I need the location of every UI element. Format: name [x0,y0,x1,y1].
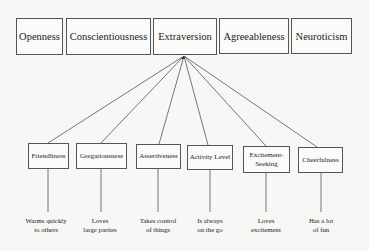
domain-agreeableness: Agreeableness [219,18,289,54]
example-excitement-seeking: Loves excitement [236,216,296,234]
facet-friendliness: Friendliness [28,143,69,169]
facet-gregariousness: Gregariousness [76,143,127,169]
line-friendliness [48,56,184,143]
domain-neuroticism: Neuroticism [291,18,352,54]
example-activity-level: Is always on the go [180,216,240,234]
example-assertiveness: Takes control of things [128,216,188,234]
example-cheerfulness: Has a lot of fun [291,216,351,234]
example-friendliness: Warms quickly to others [16,216,76,234]
facet-cheerfulness: Cheerfulness [298,147,343,173]
facet-assertiveness: Assertiveness [136,144,181,169]
example-gregariousness: Loves large parties [70,216,130,234]
facet-activity-level: Activity Level [187,145,233,170]
facet-label: Assertiveness [139,152,178,161]
line-cheerfulness [184,56,317,147]
facet-label: Friendliness [31,152,65,161]
domain-label: Agreeableness [223,31,284,42]
domain-openness: Openness [16,18,63,55]
domain-conscientiousness: Conscientiousness [66,18,151,55]
facet-label: Cheerfulness [302,156,339,165]
domain-extraversion: Extraversion [153,18,217,55]
facet-label: Gregariousness [80,152,123,161]
facet-excitement-seeking: Excitement-Seeking [243,146,290,173]
facet-label: Excitement-Seeking [245,151,288,169]
domain-label: Openness [19,31,60,42]
domain-label: Neuroticism [296,31,348,42]
domain-label: Extraversion [158,31,212,42]
facet-label: Activity Level [190,153,231,162]
domain-label: Conscientiousness [70,31,148,42]
